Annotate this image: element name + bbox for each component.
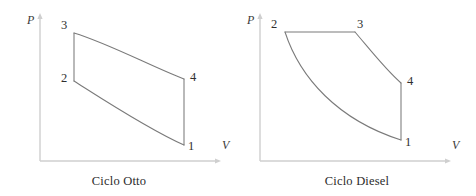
diesel-state-label-2: 2 (271, 18, 277, 31)
diesel-caption: Ciclo Diesel (238, 174, 476, 189)
diesel-cycle-curve (285, 32, 401, 140)
diesel-state-label-1: 1 (405, 136, 411, 149)
diesel-cycle-panel: P V 2 3 4 1 Ciclo Diesel (238, 0, 476, 196)
otto-x-axis-label: V (222, 139, 229, 151)
otto-state-label-4: 4 (190, 71, 196, 84)
otto-state-label-1: 1 (188, 140, 194, 153)
diesel-y-axis-label: P (247, 14, 254, 26)
diesel-state-label-4: 4 (407, 75, 413, 88)
otto-y-axis (37, 13, 42, 161)
otto-cycle-plot (0, 0, 238, 196)
otto-cycle-curve (74, 33, 184, 145)
otto-state-label-3: 3 (61, 19, 67, 32)
diesel-x-axis (260, 158, 451, 163)
otto-process-2-1 (74, 81, 184, 145)
otto-x-axis (40, 158, 221, 163)
diesel-process-2-1 (285, 32, 401, 140)
thermodynamic-cycles-figure: P V 3 2 4 1 Ciclo Otto (0, 0, 476, 196)
diesel-process-3-4 (355, 32, 401, 83)
otto-process-3-4 (74, 33, 184, 79)
otto-cycle-panel: P V 3 2 4 1 Ciclo Otto (0, 0, 238, 196)
diesel-state-label-3: 3 (357, 18, 363, 31)
diesel-x-axis-label: V (452, 139, 459, 151)
otto-y-axis-label: P (27, 14, 34, 26)
diesel-y-axis (257, 13, 262, 161)
otto-caption: Ciclo Otto (0, 174, 238, 189)
otto-state-label-2: 2 (61, 72, 67, 85)
